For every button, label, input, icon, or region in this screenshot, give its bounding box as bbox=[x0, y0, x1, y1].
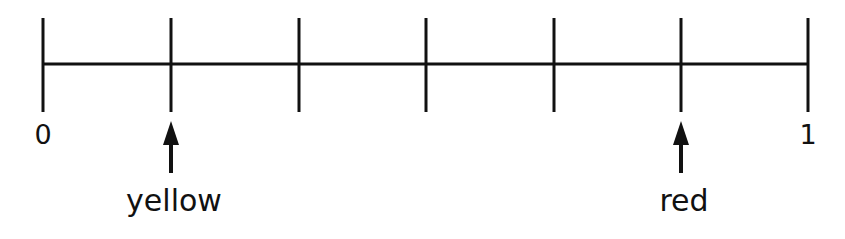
end-label: 1 bbox=[799, 121, 816, 148]
arrow-up-icon bbox=[673, 121, 689, 173]
arrow-up-icon bbox=[163, 121, 179, 173]
marker-label-red: red bbox=[659, 186, 708, 216]
marker-label-yellow: yellow bbox=[126, 186, 222, 216]
start-label: 0 bbox=[34, 121, 51, 148]
